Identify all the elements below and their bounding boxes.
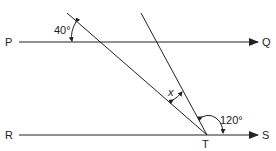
- label-r: R: [5, 129, 13, 141]
- angle-label-40: 40°: [54, 24, 71, 36]
- angle-arc-x: [173, 92, 182, 100]
- angle-arc-40: [72, 22, 77, 41]
- angle-label-120: 120°: [220, 114, 243, 126]
- transversal-2: [141, 13, 207, 135]
- label-p: P: [5, 36, 12, 48]
- label-q: Q: [262, 36, 271, 48]
- transversal-1: [67, 13, 207, 135]
- label-s: S: [262, 129, 269, 141]
- label-t: T: [202, 138, 209, 150]
- angle-label-x: x: [167, 86, 174, 98]
- geometry-diagram: P Q R S T 40° x 120°: [0, 0, 276, 151]
